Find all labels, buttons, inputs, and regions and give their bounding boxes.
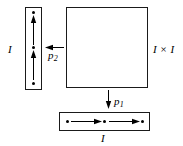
product-square-box: [66, 7, 148, 88]
product-projection-diagram: I I × I I p1 p2: [0, 0, 183, 146]
projection-p2-label: p2: [48, 50, 58, 64]
product-square-label-text: I × I: [153, 43, 174, 55]
horizontal-interval-label: I: [101, 133, 105, 144]
horizontal-interval-dot-right: [141, 120, 144, 123]
projection-p1-subscript: 1: [120, 100, 124, 109]
vertical-interval-dot-top: [32, 11, 35, 14]
projection-p1-arrow-icon: [106, 90, 111, 109]
vertical-interval-dot-middle: [32, 46, 35, 49]
projection-p1-label: p1: [114, 96, 124, 110]
projection-p2-subscript: 2: [54, 54, 58, 63]
vertical-interval-dot-bottom: [32, 82, 35, 85]
horizontal-interval-dot-middle: [103, 120, 106, 123]
vertical-interval-label: I: [8, 44, 12, 55]
product-square-label: I × I: [153, 44, 174, 55]
horizontal-interval-dot-left: [66, 120, 69, 123]
